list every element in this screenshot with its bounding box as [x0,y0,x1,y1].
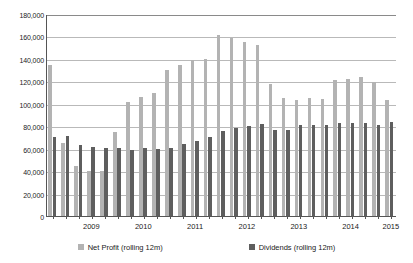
x-axis-tick [53,216,54,219]
legend-label-dividends: Dividends (rolling 12m) [259,243,336,252]
bar-net-profit [256,45,260,216]
x-axis-tick [352,216,353,219]
legend-label-net-profit: Net Profit (rolling 12m) [88,243,163,252]
bar-dividends [182,144,186,216]
x-axis-tick [157,216,158,219]
bar-net-profit [295,100,299,216]
x-axis-tick [261,216,262,219]
bar-net-profit [308,98,312,216]
plot-area [46,15,396,217]
chart-legend: Net Profit (rolling 12m) Dividends (roll… [0,240,413,254]
bar-dividends [104,148,108,216]
bar-net-profit [113,132,117,216]
y-axis: 180,000160,000140,000120,000100,00080,00… [0,15,44,217]
bar-net-profit [269,84,273,216]
bar-dividends [390,122,394,216]
bar-group [306,15,319,216]
bar-dividends [91,147,95,216]
bar-dividends [53,137,57,216]
bar-dividends [325,125,329,216]
bar-dividends [351,123,355,216]
bar-net-profit [359,77,363,216]
x-axis-tick [378,216,379,219]
bar-net-profit [74,166,78,216]
bar-group [125,15,138,216]
bar-net-profit [48,65,52,216]
bar-dividends [299,125,303,216]
y-axis-tick-label: 160,000 [0,34,44,41]
bar-net-profit [204,59,208,216]
bar-net-profit [100,171,104,216]
bar-group [60,15,73,216]
x-axis: 2009201020112012201320142015 [46,222,396,234]
bar-group [384,15,397,216]
x-axis-tick [235,216,236,219]
bar-group [254,15,267,216]
legend-swatch-icon-net-profit [78,244,84,250]
legend-entry-net-profit: Net Profit (rolling 12m) [78,243,163,252]
bar-dividends [117,148,121,216]
bar-group [371,15,384,216]
bar-chart: 180,000160,000140,000120,000100,00080,00… [0,0,413,263]
x-axis-tick [222,216,223,219]
bar-group [332,15,345,216]
bar-group [86,15,99,216]
x-axis-year-label: 2009 [83,222,100,231]
bar-dividends [156,149,160,216]
y-axis-tick-label: 0 [0,214,44,221]
bar-group [280,15,293,216]
x-axis-year-label: 2015 [382,222,399,231]
y-axis-tick-label: 20,000 [0,191,44,198]
bar-group [151,15,164,216]
bars-layer [47,15,396,216]
bar-group [164,15,177,216]
x-axis-tick [300,216,301,219]
bar-dividends [79,145,83,216]
bar-dividends [364,123,368,216]
x-axis-tick [131,216,132,219]
x-axis-tick [144,216,145,219]
bar-dividends [66,136,70,216]
x-axis-tick [287,216,288,219]
x-axis-tick [248,216,249,219]
bar-group [203,15,216,216]
x-axis-year-label: 2012 [239,222,256,231]
x-axis-tick [196,216,197,219]
bar-net-profit [178,65,182,217]
x-axis-tick [79,216,80,219]
x-axis-tick [365,216,366,219]
bar-dividends [221,131,225,216]
x-axis-tick [339,216,340,219]
bar-group [267,15,280,216]
y-axis-tick-label: 100,000 [0,101,44,108]
bar-dividends [208,137,212,216]
bar-dividends [338,123,342,216]
bar-net-profit [321,99,325,216]
y-axis-tick-label: 40,000 [0,169,44,176]
x-axis-tick [326,216,327,219]
bar-net-profit [87,171,91,216]
bar-net-profit [346,79,350,216]
bar-net-profit [243,42,247,217]
bar-group [73,15,86,216]
bar-net-profit [385,100,389,216]
bar-net-profit [61,143,65,216]
y-axis-tick-label: 60,000 [0,146,44,153]
bar-group [190,15,203,216]
bar-net-profit [217,35,221,216]
bar-group [47,15,60,216]
bar-net-profit [139,97,143,216]
bar-net-profit [282,98,286,216]
legend-entry-dividends: Dividends (rolling 12m) [249,243,336,252]
bar-dividends [377,125,381,216]
bar-dividends [286,130,290,216]
bar-group [345,15,358,216]
y-axis-tick-label: 140,000 [0,56,44,63]
x-axis-tick [183,216,184,219]
bar-net-profit [165,70,169,216]
x-axis-year-label: 2014 [342,222,359,231]
bar-net-profit [372,82,376,216]
x-axis-tick [170,216,171,219]
x-axis-tick [92,216,93,219]
x-axis-tick [274,216,275,219]
